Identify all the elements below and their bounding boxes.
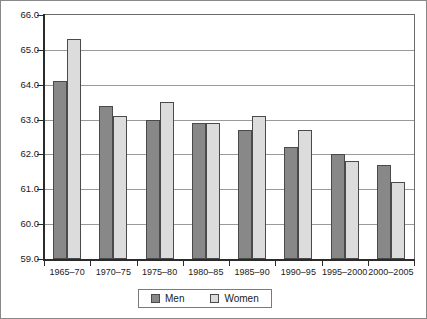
bar-group (90, 15, 136, 259)
bar-women (160, 102, 174, 259)
y-tick-mark (37, 120, 44, 121)
legend-item-men: Men (151, 293, 184, 304)
bar-group (322, 15, 368, 259)
y-tick-label: 61.0 (5, 184, 39, 194)
bar-group (275, 15, 321, 259)
y-tick-label: 66.0 (5, 10, 39, 20)
x-tick-mark (183, 260, 184, 266)
x-tick-label: 1975–80 (137, 267, 183, 278)
x-tick-label: 2000–2005 (368, 267, 414, 278)
x-tick-mark (368, 260, 369, 266)
y-tick-mark (37, 154, 44, 155)
x-tick-mark (90, 260, 91, 266)
bar-women (206, 123, 220, 259)
bar-chart-figure: 66.065.064.063.062.061.060.059.0 1965–70… (0, 0, 427, 319)
legend-item-women: Women (210, 293, 258, 304)
bar-men (331, 154, 345, 259)
y-tick-mark (37, 259, 44, 260)
x-tick-label: 1965–70 (44, 267, 90, 278)
bar-men (146, 120, 160, 259)
bar-women (391, 182, 405, 259)
bar-women (298, 130, 312, 259)
bar-women (113, 116, 127, 259)
bar-men (377, 165, 391, 259)
y-tick-mark (37, 50, 44, 51)
y-tick-label: 64.0 (5, 80, 39, 90)
bar-men (53, 81, 67, 259)
bar-group (137, 15, 183, 259)
bar-women (252, 116, 266, 259)
y-axis-labels: 66.065.064.063.062.061.060.059.0 (1, 1, 39, 319)
x-tick-mark (414, 260, 415, 266)
bar-women (67, 39, 81, 259)
legend-label-women: Women (224, 293, 258, 304)
chart-legend: Men Women (138, 289, 272, 308)
y-tick-mark (37, 15, 44, 16)
bars-layer (44, 15, 414, 259)
x-tick-label: 1970–75 (90, 267, 136, 278)
bar-women (345, 161, 359, 259)
x-tick-mark (137, 260, 138, 266)
x-tick-mark (229, 260, 230, 266)
x-tick-label: 1980–85 (183, 267, 229, 278)
bar-group (229, 15, 275, 259)
y-tick-label: 60.0 (5, 219, 39, 229)
x-tick-label: 1985–90 (229, 267, 275, 278)
legend-label-men: Men (165, 293, 184, 304)
y-tick-mark (37, 85, 44, 86)
x-tick-mark (322, 260, 323, 266)
x-tick-mark (275, 260, 276, 266)
y-tick-label: 63.0 (5, 115, 39, 125)
men-swatch-icon (151, 294, 160, 303)
y-tick-mark (37, 224, 44, 225)
bar-group (183, 15, 229, 259)
bar-men (238, 130, 252, 259)
bar-men (99, 106, 113, 259)
x-tick-mark (44, 260, 45, 266)
bar-men (192, 123, 206, 259)
bar-men (284, 147, 298, 259)
x-tick-label: 1990–95 (275, 267, 321, 278)
y-tick-mark (37, 189, 44, 190)
bar-group (44, 15, 90, 259)
x-tick-label: 1995–2000 (322, 267, 368, 278)
bar-group (368, 15, 414, 259)
y-tick-label: 65.0 (5, 45, 39, 55)
women-swatch-icon (210, 294, 219, 303)
y-tick-label: 62.0 (5, 149, 39, 159)
y-tick-label: 59.0 (5, 254, 39, 264)
